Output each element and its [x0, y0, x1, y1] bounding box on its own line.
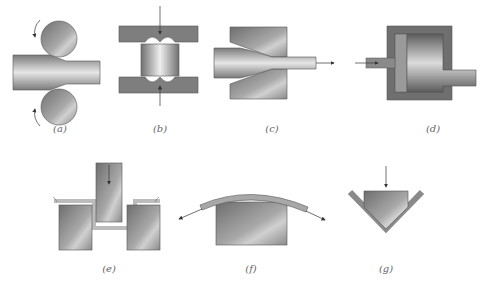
lower-roll: [41, 89, 77, 125]
upper-roll: [41, 21, 77, 57]
metal-forming-diagram: [0, 0, 492, 288]
die-right: [127, 205, 160, 250]
label-g: (g): [379, 263, 393, 274]
tension-arrow-icon: [306, 211, 325, 220]
rotation-arrow-icon: [35, 20, 40, 37]
panel-e-deep-drawing: [53, 163, 160, 250]
ram: [395, 34, 407, 92]
tension-arrow-icon: [179, 209, 202, 219]
panel-f-stretch-forming: [179, 194, 325, 245]
label-f: (f): [245, 263, 257, 274]
panel-d-extrusion: [355, 26, 476, 100]
label-a: (a): [53, 123, 67, 134]
workpiece: [141, 44, 179, 76]
panel-g-bending: [350, 166, 422, 229]
panel-c-drawing: [214, 27, 334, 99]
die-left: [59, 205, 92, 250]
form-block: [216, 202, 287, 245]
label-c: (c): [265, 123, 278, 134]
label-b: (b): [153, 123, 167, 134]
panel-a-rolling: [13, 20, 100, 126]
panel-b-forging: [119, 6, 198, 106]
rotation-arrow-icon: [35, 109, 40, 126]
label-e: (e): [102, 263, 116, 274]
label-d: (d): [426, 123, 440, 134]
punch: [364, 191, 408, 229]
billet: [407, 34, 476, 92]
